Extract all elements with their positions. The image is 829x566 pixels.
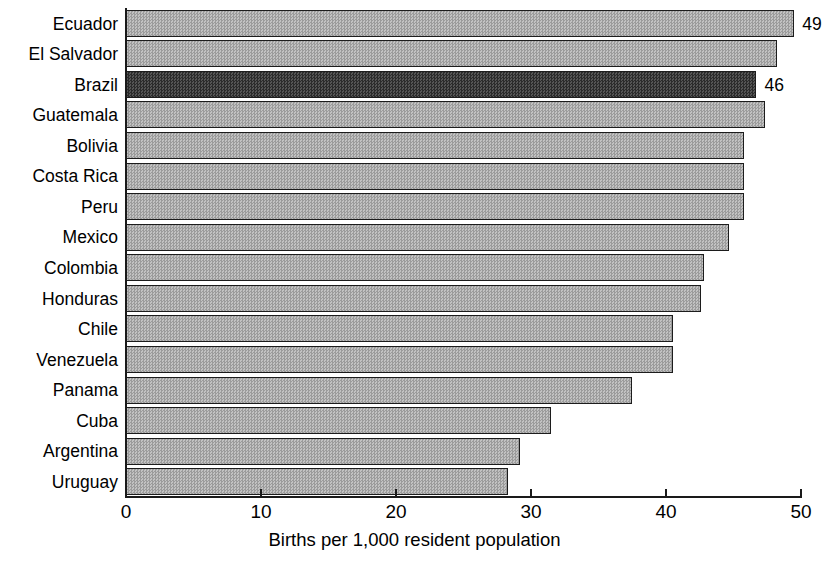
category-label-panama: Panama xyxy=(0,382,118,400)
bar-colombia[interactable] xyxy=(126,254,704,281)
x-tick-label: 30 xyxy=(520,502,541,521)
category-label-colombia: Colombia xyxy=(0,260,118,278)
bar-value-label: 49 xyxy=(802,16,821,34)
bar-row xyxy=(126,40,801,67)
x-tick-label: 10 xyxy=(250,502,271,521)
bar-brazil[interactable] xyxy=(126,71,756,98)
x-tick-label: 0 xyxy=(121,502,132,521)
category-label-argentina: Argentina xyxy=(0,443,118,461)
x-tick-mark xyxy=(395,489,397,497)
category-label-venezuela: Venezuela xyxy=(0,352,118,370)
category-label-honduras: Honduras xyxy=(0,291,118,309)
bar-uruguay[interactable] xyxy=(126,468,508,495)
category-label-mexico: Mexico xyxy=(0,229,118,247)
bar-row: 46 xyxy=(126,71,801,98)
bar-row xyxy=(126,163,801,190)
bar-row xyxy=(126,285,801,312)
bar-row xyxy=(126,132,801,159)
category-label-costa-rica: Costa Rica xyxy=(0,168,118,186)
bar-mexico[interactable] xyxy=(126,224,729,251)
bar-row: 49 xyxy=(126,10,801,37)
category-label-bolivia: Bolivia xyxy=(0,138,118,156)
x-tick-mark xyxy=(665,489,667,497)
bar-row xyxy=(126,407,801,434)
plot-area: 4946 xyxy=(126,8,801,497)
y-axis-line xyxy=(125,8,127,498)
bar-row xyxy=(126,254,801,281)
category-label-chile: Chile xyxy=(0,321,118,339)
x-tick-label: 50 xyxy=(790,502,811,521)
bar-row xyxy=(126,346,801,373)
category-label-cuba: Cuba xyxy=(0,413,118,431)
bar-argentina[interactable] xyxy=(126,438,520,465)
bar-row xyxy=(126,315,801,342)
bar-ecuador[interactable] xyxy=(126,10,794,37)
bar-value-label: 46 xyxy=(764,77,783,95)
bar-chile[interactable] xyxy=(126,315,673,342)
x-axis-line xyxy=(125,496,802,498)
bar-row xyxy=(126,377,801,404)
bar-row xyxy=(126,101,801,128)
bar-bolivia[interactable] xyxy=(126,132,744,159)
x-axis-title: Births per 1,000 resident population xyxy=(0,531,829,550)
category-label-el-salvador: El Salvador xyxy=(0,46,118,64)
x-tick-label: 40 xyxy=(655,502,676,521)
x-tick-mark xyxy=(260,489,262,497)
x-tick-mark xyxy=(530,489,532,497)
category-label-ecuador: Ecuador xyxy=(0,16,118,34)
x-tick-mark xyxy=(800,489,802,497)
bar-honduras[interactable] xyxy=(126,285,701,312)
category-label-brazil: Brazil xyxy=(0,77,118,95)
category-label-peru: Peru xyxy=(0,199,118,217)
bar-guatemala[interactable] xyxy=(126,101,765,128)
x-tick-mark xyxy=(125,489,127,497)
bar-panama[interactable] xyxy=(126,377,632,404)
bar-row xyxy=(126,193,801,220)
bar-row xyxy=(126,468,801,495)
category-label-uruguay: Uruguay xyxy=(0,474,118,492)
bar-costa-rica[interactable] xyxy=(126,163,744,190)
bar-cuba[interactable] xyxy=(126,407,551,434)
category-axis-labels: EcuadorEl SalvadorBrazilGuatemalaBolivia… xyxy=(0,8,118,497)
bar-el-salvador[interactable] xyxy=(126,40,777,67)
bar-row xyxy=(126,438,801,465)
bar-venezuela[interactable] xyxy=(126,346,673,373)
x-tick-label: 20 xyxy=(385,502,406,521)
bar-peru[interactable] xyxy=(126,193,744,220)
category-label-guatemala: Guatemala xyxy=(0,107,118,125)
bar-row xyxy=(126,224,801,251)
bar-chart: EcuadorEl SalvadorBrazilGuatemalaBolivia… xyxy=(0,0,829,566)
